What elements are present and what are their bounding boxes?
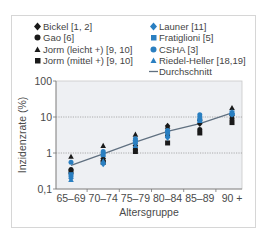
circle-marker — [69, 160, 74, 165]
chart-plot: 0,1110100 65–6970–7475–7980–8485–8990 + … — [0, 0, 267, 238]
x-tick-label: 90 + — [222, 192, 243, 204]
plot-area — [56, 81, 242, 189]
x-axis: 65–6970–7475–7980–8485–8990 + — [56, 189, 242, 204]
y-tick-label: 1 — [46, 147, 52, 159]
square-marker — [69, 172, 74, 177]
x-tick-label: 75–79 — [121, 192, 150, 204]
y-tick-label: 100 — [34, 75, 52, 87]
x-tick-label: 70–74 — [89, 192, 118, 204]
circle-marker — [133, 136, 138, 141]
x-tick-label: 85–89 — [185, 192, 214, 204]
circle-marker — [101, 149, 106, 154]
y-axis: 0,1110100 — [34, 75, 56, 195]
x-axis-label: Altersgruppe — [119, 206, 179, 218]
square-marker — [165, 140, 170, 145]
square-marker — [230, 120, 235, 125]
square-marker — [133, 149, 138, 154]
y-axis-label: Inzidenzrate (%) — [16, 97, 28, 173]
square-marker — [197, 130, 202, 135]
y-tick-label: 10 — [40, 111, 52, 123]
x-tick-label: 65–69 — [56, 192, 85, 204]
x-tick-label: 80–84 — [153, 192, 182, 204]
y-tick-label: 0,1 — [37, 183, 52, 195]
